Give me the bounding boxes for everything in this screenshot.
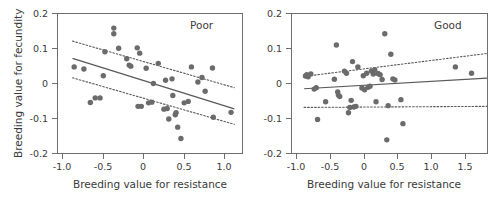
data-point: [195, 79, 200, 84]
y-tick-label: 0.2: [256, 8, 282, 19]
data-point: [111, 31, 116, 36]
data-point: [128, 63, 133, 68]
figure-root: Breeding value for fecundity 0.2 0.1 0 -…: [0, 0, 498, 200]
plot-content-poor: [58, 14, 244, 155]
x-tick-mark: [397, 154, 398, 159]
x-axis-title-poor: Breeding value for resistance: [50, 178, 250, 190]
data-point: [332, 77, 337, 82]
data-point: [139, 104, 144, 109]
y-tick-label: 0: [22, 78, 48, 89]
data-point: [384, 137, 389, 142]
x-tick-label: -0.5: [83, 161, 123, 172]
y-tick-label: -0.2: [18, 148, 48, 159]
x-axis-title-good: Breeding value for resistance: [284, 178, 484, 190]
data-point: [334, 42, 339, 47]
data-point: [143, 66, 148, 71]
x-tick-label: 0.5: [164, 161, 204, 172]
data-point: [392, 77, 397, 82]
data-point: [337, 94, 342, 99]
y-tick-label: -0.1: [252, 113, 282, 124]
x-tick-mark: [330, 154, 331, 159]
data-point: [228, 110, 233, 115]
data-point: [175, 124, 180, 129]
y-tick-label: 0.2: [22, 8, 48, 19]
x-tick-mark: [224, 154, 225, 159]
x-tick-mark: [184, 154, 185, 159]
confidence-band-upper-poor: [73, 41, 235, 88]
data-point: [350, 59, 355, 64]
data-point: [124, 56, 129, 61]
x-tick-mark: [296, 154, 297, 159]
data-point: [111, 25, 116, 30]
data-point: [400, 121, 405, 126]
x-tick-mark: [62, 154, 63, 159]
data-point: [170, 93, 175, 98]
panel-poor: Breeding value for fecundity 0.2 0.1 0 -…: [0, 0, 250, 200]
data-point: [102, 49, 107, 54]
data-point: [156, 61, 161, 66]
data-point: [116, 45, 121, 50]
data-point: [344, 71, 349, 76]
panel-title-poor: Poor: [190, 19, 213, 31]
x-tick-mark: [143, 154, 144, 159]
data-point: [210, 65, 215, 70]
data-point: [169, 76, 174, 81]
x-tick-label: 1.5: [445, 161, 485, 172]
data-point: [348, 98, 353, 103]
data-point: [186, 99, 191, 104]
data-point: [71, 64, 76, 69]
data-point: [202, 89, 207, 94]
x-tick-mark: [103, 154, 104, 159]
data-point: [173, 110, 178, 115]
x-tick-mark: [465, 154, 466, 159]
x-tick-label: -1.0: [42, 161, 82, 172]
data-point: [135, 45, 140, 50]
data-point: [211, 115, 216, 120]
x-tick-label: 0: [123, 161, 163, 172]
y-tick-label: -0.1: [18, 113, 48, 124]
y-tick-label: 0: [256, 78, 282, 89]
confidence-band-lower-good: [304, 106, 487, 107]
confidence-band-upper-good: [304, 53, 487, 76]
data-point: [88, 100, 93, 105]
data-point: [398, 97, 403, 102]
data-point: [308, 71, 313, 76]
data-point: [199, 75, 204, 80]
data-point: [355, 64, 360, 69]
y-tick-label: 0.1: [22, 43, 48, 54]
y-tick-label: 0.1: [256, 43, 282, 54]
data-point: [379, 77, 384, 82]
data-point: [353, 104, 358, 109]
data-point: [346, 110, 351, 115]
x-tick-mark: [431, 154, 432, 159]
plot-content-good: [292, 14, 489, 155]
data-point: [149, 99, 154, 104]
data-point: [189, 64, 194, 69]
data-point: [373, 99, 378, 104]
x-tick-mark: [364, 154, 365, 159]
data-point: [163, 78, 168, 83]
data-point: [137, 50, 142, 55]
data-point: [377, 72, 382, 77]
data-point: [382, 31, 387, 36]
panel-title-good: Good: [434, 19, 462, 31]
data-point: [453, 64, 458, 69]
panel-good: 0.2 0.1 0 -0.1 -0.2 Good: [248, 0, 498, 200]
data-point: [367, 84, 372, 89]
data-point: [385, 103, 390, 108]
data-point: [101, 73, 106, 78]
data-point: [93, 95, 98, 100]
data-point: [364, 71, 369, 76]
y-tick-label: -0.2: [252, 148, 282, 159]
scatter-points-poor: [71, 25, 233, 141]
data-point: [388, 51, 393, 56]
data-point: [469, 71, 474, 76]
data-point: [315, 117, 320, 122]
data-point: [166, 116, 171, 121]
data-point: [314, 85, 319, 90]
data-point: [323, 99, 328, 104]
data-point: [178, 136, 183, 141]
data-point: [151, 81, 156, 86]
data-point: [81, 66, 86, 71]
x-tick-label: 1.0: [204, 161, 244, 172]
